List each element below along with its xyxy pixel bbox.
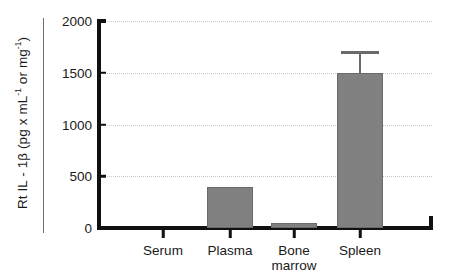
- y-tick-mark-0: [101, 227, 106, 230]
- y-axis-title-superscript-1: -1: [13, 88, 23, 96]
- bar-spleen: [337, 73, 383, 228]
- y-axis-title-prefix: Rt IL - 1β (pg x mL: [15, 95, 30, 208]
- y-tick-mark-1500: [101, 72, 106, 75]
- x-tick-mark-plasma: [229, 230, 232, 238]
- x-tick-label-spleen-line1: Spleen: [339, 243, 381, 258]
- y-axis-title-middle: or mg: [15, 49, 30, 88]
- y-axis-title-container: Rt IL - 1β (pg x mL-1 or mg-1): [0, 0, 44, 245]
- y-tick-label-500: 500: [48, 169, 92, 184]
- x-axis-end-cap: [429, 216, 433, 230]
- y-tick-mark-2000: [101, 20, 106, 23]
- y-axis-title-suffix: ): [15, 36, 30, 41]
- bar-bone-marrow: [271, 223, 317, 228]
- y-tick-label-1000: 1000: [48, 117, 92, 132]
- x-tick-label-spleen: Spleen: [300, 243, 420, 258]
- y-axis-title-divider: [43, 18, 44, 233]
- bar-plasma: [207, 187, 253, 228]
- bar-chart-figure: Rt IL - 1β (pg x mL-1 or mg-1) 2000 1500…: [0, 0, 451, 280]
- x-tick-label-bone-marrow-line2: marrow: [234, 258, 354, 273]
- y-tick-mark-500: [101, 175, 106, 178]
- error-bar-line-spleen: [359, 52, 362, 73]
- x-tick-mark-bone-marrow: [293, 230, 296, 238]
- error-bar-cap-spleen: [341, 51, 379, 54]
- y-axis-title-superscript-2: -1: [13, 41, 23, 49]
- x-tick-mark-spleen: [359, 230, 362, 238]
- y-tick-label-0: 0: [48, 221, 92, 236]
- y-tick-label-1500: 1500: [48, 65, 92, 80]
- y-tick-mark-1000: [101, 123, 106, 126]
- y-tick-label-2000: 2000: [48, 14, 92, 29]
- gridline-2000: [100, 21, 432, 23]
- y-axis-title: Rt IL - 1β (pg x mL-1 or mg-1): [15, 36, 30, 208]
- x-tick-mark-serum: [162, 230, 165, 238]
- y-tick-labels: 2000 1500 1000 500 0: [48, 0, 92, 280]
